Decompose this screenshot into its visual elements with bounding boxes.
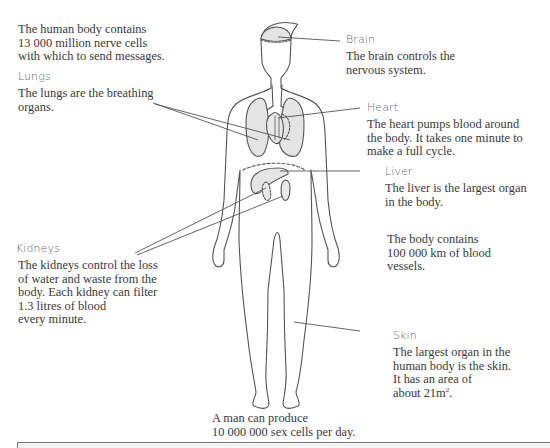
skin-leader-line bbox=[294, 322, 360, 331]
skin-label: Skin bbox=[393, 329, 417, 342]
bottom-frame-border bbox=[17, 442, 550, 448]
brain-label: Brain bbox=[346, 33, 375, 46]
lungs-description: The lungs are the breathing organs. bbox=[18, 87, 154, 114]
skin-text-end: . bbox=[449, 386, 452, 400]
left-kidney bbox=[262, 182, 271, 200]
body-outline bbox=[213, 23, 340, 409]
heart-label: Heart bbox=[367, 101, 398, 114]
liver-description: The liver is the largest organ in the bo… bbox=[385, 182, 527, 209]
left-lung bbox=[246, 98, 269, 156]
kidneys-leader-line-1 bbox=[135, 188, 266, 253]
heart-description: The heart pumps blood around the body. I… bbox=[367, 118, 523, 159]
lungs-leader-line-1 bbox=[153, 103, 258, 140]
sex-cells-fact: A man can produce 10 000 000 sex cells p… bbox=[212, 412, 355, 439]
brain-description: The brain controls the nervous system. bbox=[346, 50, 455, 77]
right-kidney bbox=[281, 180, 290, 200]
liver-label: Liver bbox=[385, 165, 412, 178]
intro-fact-text: The human body contains 13 000 million n… bbox=[18, 23, 165, 64]
lungs-label: Lungs bbox=[18, 70, 51, 83]
skin-description: The largest organ in the human body is t… bbox=[393, 346, 511, 400]
kidneys-leader-line-2 bbox=[137, 196, 283, 255]
blood-vessels-fact: The body contains 100 000 km of blood ve… bbox=[387, 233, 491, 274]
kidneys-label: Kidneys bbox=[16, 242, 60, 255]
kidneys-description: The kidneys control the loss of water an… bbox=[18, 259, 158, 327]
